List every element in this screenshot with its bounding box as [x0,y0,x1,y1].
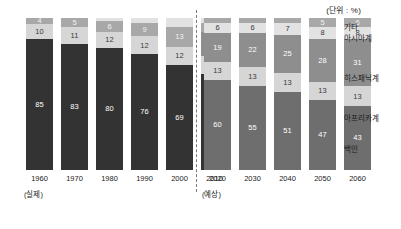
bar-1980: 61280 [96,18,123,170]
x-tick-2050: 2050 [309,174,336,188]
legend-item-백인: 백인 [344,146,358,154]
bar-segment-1970-백인: 83 [61,44,88,170]
bar-segment-value: 5 [72,19,76,27]
bar-segment-value: 47 [318,131,326,139]
bar-segment-2000-기타: 13 [166,27,193,47]
bar-segment-1960-아프리카계: 10 [26,24,53,39]
x-tick-2030: 2030 [239,174,266,188]
bar-segment-value: 10 [35,28,43,36]
bar-1960: 41085 [26,18,53,170]
x-axis-ticks-projected: 20202030204020502060 [204,174,371,188]
bar-2020: 6191360 [204,18,231,170]
bar-segment-value: 51 [283,127,291,135]
bar-group-actual: 410855118361280912761312695161264 [26,18,228,170]
bar-segment-1990-기타: 9 [131,23,158,37]
x-tick-1990: 1990 [131,174,158,188]
bar-segment-value: 9 [142,26,146,34]
x-tick-2040: 2040 [274,174,301,188]
bar-2030: 6221355 [239,18,266,170]
bar-segment-value: 6 [250,24,254,32]
bar-segment-value: 85 [35,101,43,109]
bar-segment-2020-백인: 60 [204,80,231,170]
bar-segment-value: 19 [213,44,221,52]
bar-segment-2050-기타: 5 [309,18,336,27]
bar-segment-value: 7 [285,25,289,33]
bar-segment-value: 22 [248,46,256,54]
bar-segment-value: 12 [140,42,148,50]
bar-segment-value: 13 [175,33,183,41]
chart-root: (단위 : %) 4108551183612809127613126951612… [0,0,401,229]
x-tick-2060: 2060 [344,174,371,188]
bar-segment-2000-아프리카계: 12 [166,47,193,65]
bar-segment-value: 5 [320,19,324,27]
bar-1990: 91276 [131,18,158,170]
x-tick-1960: 1960 [26,174,53,188]
bar-2000: 131269 [166,18,193,170]
bar-segment-value: 13 [318,87,326,95]
bar-segment-2040-히스패닉계: 25 [274,35,301,73]
bar-segment-2030-백인: 55 [239,86,266,170]
bar-segment-value: 76 [140,108,148,116]
group-note-projected: (예상) [202,188,221,199]
bar-segment-2050-백인: 47 [309,100,336,170]
bar-segment-value: 6 [215,24,219,32]
chart-legend: 기타아시아계히스패닉계아프리카계백인 [344,18,401,170]
bar-segment-value: 60 [213,121,221,129]
bar-segment-2000-백인: 69 [166,65,193,170]
bar-segment-value: 11 [71,32,79,40]
bar-segment-1990-아프리카계: 12 [131,36,158,54]
x-tick-2020: 2020 [204,174,231,188]
bar-segment-value: 55 [248,124,256,132]
bar-segment-value: 80 [105,105,113,113]
bar-segment-value: 69 [175,114,183,122]
bar-segment-value: 13 [283,79,291,87]
bar-segment-2030-아시아계: 6 [239,23,266,34]
bar-segment-1970-아프리카계: 11 [61,27,88,44]
bar-segment-2050-아시아계: 8 [309,27,336,39]
bar-segment-value: 8 [320,29,324,37]
bar-segment-value: 13 [213,67,221,75]
bar-segment-value: 13 [248,73,256,81]
legend-item-아프리카계: 아프리카계 [344,115,379,123]
bar-segment-1980-백인: 80 [96,48,123,170]
bar-2040: 7251351 [274,18,301,170]
bar-segment-1980-기타: 6 [96,21,123,32]
bar-segment-value: 12 [175,52,183,60]
bar-segment-value: 6 [107,23,111,31]
x-tick-1980: 1980 [96,174,123,188]
group-note-actual: (실제) [24,188,43,199]
bar-1970: 51183 [61,18,88,170]
bar-2050: 58281347 [309,18,336,170]
bar-segment-value: 83 [70,103,78,111]
bar-segment-2000-기타 [166,18,193,27]
bar-segment-1990-백인: 76 [131,54,158,170]
x-axis-ticks-actual: 196019701980199020002010 [26,174,228,188]
bar-segment-2020-아프리카계: 13 [204,62,231,80]
plot-area: 410855118361280912761312695161264 619136… [0,18,401,192]
bar-segment-2040-아프리카계: 13 [274,73,301,93]
bar-segment-value: 12 [105,36,113,44]
bar-segment-2020-히스패닉계: 19 [204,33,231,62]
bar-segment-value: 28 [318,57,326,65]
legend-item-히스패닉계: 히스패닉계 [344,75,379,83]
bar-segment-1980-아프리카계: 12 [96,32,123,49]
bar-segment-2050-히스패닉계: 28 [309,39,336,82]
bar-segment-2030-아프리카계: 13 [239,67,266,87]
bar-segment-value: 25 [283,50,291,58]
unit-note: (단위 : %) [326,4,361,15]
bar-segment-2020-아시아계: 6 [204,23,231,34]
x-tick-1970: 1970 [61,174,88,188]
legend-item-기타: 기타 [344,24,358,32]
legend-item-아시아계: 아시아계 [344,35,372,43]
bar-segment-2040-백인: 51 [274,92,301,170]
bar-segment-2050-아프리카계: 13 [309,82,336,100]
bar-segment-2030-히스패닉계: 22 [239,33,266,66]
bar-segment-1970-기타: 5 [61,18,88,27]
bar-segment-1960-백인: 85 [26,39,53,170]
bar-segment-2040-아시아계: 7 [274,23,301,35]
x-tick-2000: 2000 [166,174,193,188]
